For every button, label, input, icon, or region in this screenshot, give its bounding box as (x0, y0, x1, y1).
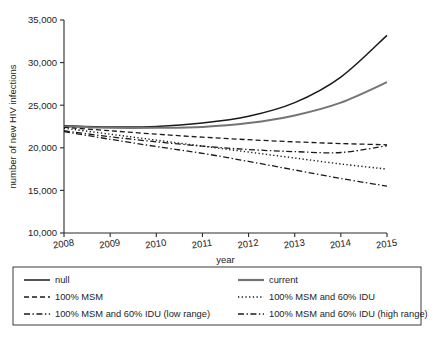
x-axis-title: year (216, 254, 234, 265)
chart-figure: 10,00015,00020,00025,00030,00035,0002008… (0, 0, 434, 343)
legend-label: 100% MSM and 60% IDU (low range) (55, 309, 210, 319)
x-tick-label: 2011 (191, 237, 213, 251)
y-tick-label: 10,000 (28, 227, 57, 238)
y-tick-label: 35,000 (28, 14, 57, 25)
y-axis-title: number of new HIV infections (7, 64, 18, 188)
chart-series (64, 35, 387, 186)
line-chart-svg: 10,00015,00020,00025,00030,00035,0002008… (0, 0, 434, 343)
series-line-100-msm-and-60-idu (64, 128, 387, 169)
x-tick-label: 2009 (98, 237, 120, 251)
y-tick-label: 30,000 (28, 57, 57, 68)
x-tick-label: 2014 (329, 237, 351, 251)
series-line-current (64, 82, 387, 128)
chart-legend[interactable]: nullcurrent100% MSM100% MSM and 60% IDU1… (13, 267, 428, 325)
x-tick-label: 2008 (52, 237, 74, 251)
chart-labels: 10,00015,00020,00025,00030,00035,0002008… (7, 14, 398, 265)
y-tick-label: 20,000 (28, 142, 57, 153)
x-tick-label: 2012 (237, 237, 259, 251)
y-tick-label: 15,000 (28, 185, 57, 196)
legend-label: null (55, 275, 69, 285)
x-tick-label: 2015 (375, 237, 397, 251)
series-line-100-msm-and-60-idu-high-range (64, 132, 387, 187)
x-tick-label: 2010 (145, 237, 167, 251)
legend-label: 100% MSM and 60% IDU (269, 292, 375, 302)
series-line-100-msm (64, 127, 387, 144)
y-tick-label: 25,000 (28, 100, 57, 111)
series-line-null (64, 35, 387, 127)
legend-label: current (269, 275, 298, 285)
legend-label: 100% MSM and 60% IDU (high range) (269, 309, 428, 319)
legend-label: 100% MSM (55, 292, 103, 302)
x-tick-label: 2013 (283, 237, 305, 251)
